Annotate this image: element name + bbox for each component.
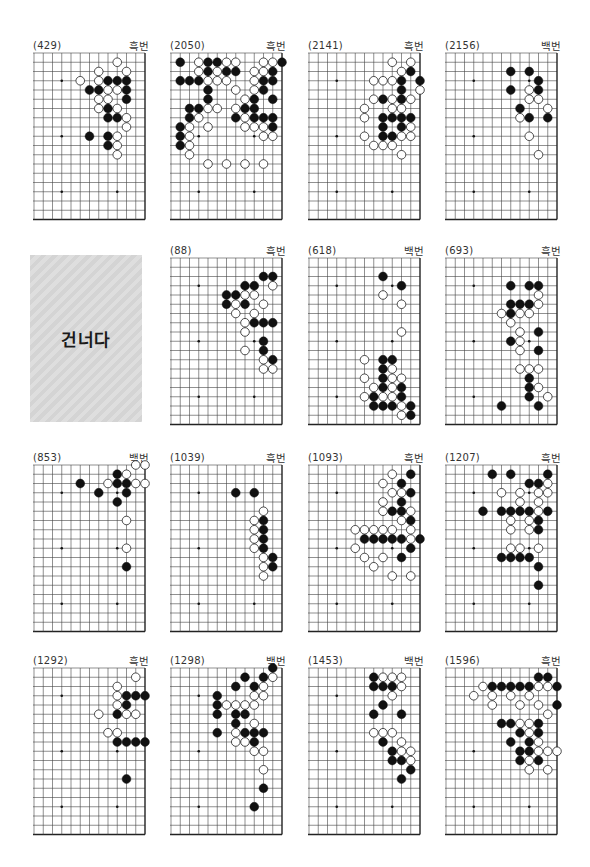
white-stone bbox=[369, 95, 378, 104]
white-stone bbox=[259, 691, 268, 700]
black-stone bbox=[516, 104, 525, 113]
white-stone bbox=[406, 572, 415, 581]
black-stone bbox=[222, 291, 231, 300]
go-board-diagram bbox=[445, 655, 563, 843]
white-stone bbox=[406, 747, 415, 756]
white-stone bbox=[104, 479, 113, 488]
white-stone bbox=[94, 104, 103, 113]
white-stone bbox=[113, 728, 122, 737]
black-stone bbox=[534, 581, 543, 590]
black-stone bbox=[525, 507, 534, 516]
white-stone bbox=[204, 104, 213, 113]
white-stone bbox=[397, 402, 406, 411]
black-stone bbox=[259, 318, 268, 327]
go-board-diagram bbox=[445, 40, 563, 228]
white-stone bbox=[250, 525, 259, 534]
white-stone bbox=[388, 141, 397, 150]
black-stone bbox=[231, 291, 240, 300]
white-stone bbox=[250, 86, 259, 95]
black-stone bbox=[122, 691, 131, 700]
white-stone bbox=[516, 701, 525, 710]
black-stone bbox=[397, 498, 406, 507]
white-stone bbox=[379, 728, 388, 737]
black-stone bbox=[543, 673, 552, 682]
black-stone bbox=[406, 411, 415, 420]
black-stone bbox=[397, 553, 406, 562]
black-stone bbox=[416, 76, 425, 85]
black-stone bbox=[122, 562, 131, 571]
go-board-diagram bbox=[308, 452, 426, 640]
black-stone bbox=[185, 104, 194, 113]
black-stone bbox=[397, 392, 406, 401]
white-stone bbox=[534, 150, 543, 159]
black-stone bbox=[379, 374, 388, 383]
white-stone bbox=[488, 691, 497, 700]
white-stone bbox=[360, 113, 369, 122]
black-stone bbox=[213, 710, 222, 719]
black-stone bbox=[534, 673, 543, 682]
black-stone bbox=[379, 123, 388, 132]
black-stone bbox=[534, 516, 543, 525]
white-stone bbox=[397, 67, 406, 76]
white-stone bbox=[259, 747, 268, 756]
white-stone bbox=[194, 113, 203, 122]
black-stone bbox=[397, 281, 406, 290]
black-stone bbox=[122, 76, 131, 85]
black-stone bbox=[379, 355, 388, 364]
black-stone bbox=[85, 86, 94, 95]
white-stone bbox=[388, 673, 397, 682]
black-stone bbox=[131, 738, 140, 747]
white-stone bbox=[231, 309, 240, 318]
black-stone bbox=[213, 728, 222, 737]
white-stone bbox=[534, 291, 543, 300]
black-stone bbox=[176, 141, 185, 150]
black-stone bbox=[268, 123, 277, 132]
white-stone bbox=[259, 132, 268, 141]
black-stone bbox=[388, 535, 397, 544]
black-stone bbox=[250, 318, 259, 327]
white-stone bbox=[406, 123, 415, 132]
black-stone bbox=[268, 562, 277, 571]
black-stone bbox=[553, 682, 562, 691]
black-stone bbox=[543, 113, 552, 122]
black-stone bbox=[85, 132, 94, 141]
white-stone bbox=[488, 701, 497, 710]
black-stone bbox=[406, 67, 415, 76]
black-stone bbox=[113, 113, 122, 122]
white-stone bbox=[516, 365, 525, 374]
black-stone bbox=[122, 738, 131, 747]
white-stone bbox=[231, 86, 240, 95]
white-stone bbox=[141, 479, 150, 488]
black-stone bbox=[397, 710, 406, 719]
white-stone bbox=[497, 488, 506, 497]
white-stone bbox=[250, 535, 259, 544]
black-stone bbox=[534, 76, 543, 85]
white-stone bbox=[122, 710, 131, 719]
white-stone bbox=[534, 682, 543, 691]
black-stone bbox=[104, 76, 113, 85]
white-stone bbox=[241, 113, 250, 122]
go-board-diagram bbox=[308, 40, 426, 228]
white-stone bbox=[406, 58, 415, 67]
black-stone bbox=[241, 710, 250, 719]
white-stone bbox=[259, 123, 268, 132]
white-stone bbox=[379, 479, 388, 488]
white-stone bbox=[250, 719, 259, 728]
black-stone bbox=[406, 765, 415, 774]
black-stone bbox=[397, 86, 406, 95]
go-board-diagram bbox=[33, 40, 151, 228]
black-stone bbox=[241, 673, 250, 682]
white-stone bbox=[241, 328, 250, 337]
white-stone bbox=[534, 701, 543, 710]
black-stone bbox=[534, 479, 543, 488]
white-stone bbox=[204, 76, 213, 85]
white-stone bbox=[506, 516, 515, 525]
black-stone bbox=[113, 710, 122, 719]
black-stone bbox=[250, 488, 259, 497]
black-stone bbox=[231, 488, 240, 497]
white-stone bbox=[141, 461, 150, 470]
black-stone bbox=[231, 710, 240, 719]
white-stone bbox=[388, 728, 397, 737]
white-stone bbox=[122, 470, 131, 479]
white-stone bbox=[113, 682, 122, 691]
